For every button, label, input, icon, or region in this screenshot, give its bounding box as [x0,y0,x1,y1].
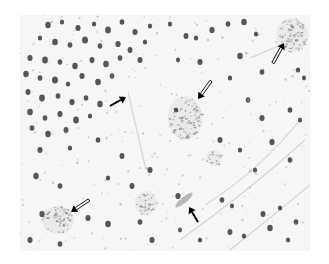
cell-nucleus [96,137,101,142]
cell-nucleus [288,107,293,113]
plaque [42,206,74,234]
cell-nucleus [174,107,178,112]
cell-nucleus [38,75,43,81]
cell-nucleus [198,238,202,243]
cell-nucleus [79,73,84,79]
cell-nucleus [57,111,62,117]
cell-nucleus [237,53,242,59]
cell-nucleus [269,139,274,145]
cell-nucleus [175,193,180,199]
cell-nucleus [197,59,202,65]
tissue-section [20,15,310,251]
cell-nucleus [90,57,95,63]
cell-nucleus [68,42,73,48]
cell-nucleus [298,118,302,123]
cell-nucleus [230,204,234,209]
cell-nucleus [84,95,89,100]
cell-nucleus [168,21,172,26]
cell-nucleus [106,175,110,180]
cell-nucleus [75,25,80,31]
cell-nucleus [33,173,38,179]
cell-nucleus [105,27,111,34]
cell-nucleus [30,125,35,131]
cell-nucleus [26,89,31,95]
cell-nucleus [137,57,142,63]
cell-nucleus [23,71,28,77]
cell-nucleus [85,215,90,221]
cell-nucleus [58,59,63,64]
cell-nucleus [288,157,293,162]
cell-nucleus [73,117,79,124]
cell-nucleus [58,183,63,189]
cell-nucleus [60,20,64,25]
cell-nucleus [138,219,143,225]
cell-nucleus [241,19,246,25]
cell-nucleus [260,69,265,75]
cell-nucleus [45,131,50,137]
cell-nucleus [37,147,42,153]
cell-nucleus [178,228,182,233]
cell-nucleus [45,22,50,28]
cell-nucleus [27,109,33,116]
cell-nucleus [278,205,282,210]
cell-nucleus [267,225,272,231]
cell-nucleus [120,19,125,25]
cell-nucleus [128,47,133,53]
cell-nucleus [118,55,123,60]
cell-nucleus [259,115,264,121]
tissue-micrograph [20,15,310,251]
cell-nucleus [110,73,115,78]
cell-nucleus [238,147,242,152]
cell-nucleus [52,77,58,84]
cell-nucleus [56,93,61,99]
cell-nucleus [130,183,135,189]
cell-nucleus [194,35,198,40]
cell-nucleus [92,21,96,26]
cell-nucleus [58,241,63,246]
cell-nucleus [132,29,137,35]
cell-nucleus [226,21,231,26]
cell-nucleus [253,168,257,173]
cell-nucleus [176,58,180,63]
cell-nucleus [218,137,223,143]
cell-nucleus [120,153,125,159]
cell-nucleus [254,32,258,37]
cell-nucleus [147,167,152,173]
cell-nucleus [296,67,300,72]
cell-nucleus [82,37,88,44]
cell-nucleus [72,63,77,69]
cell-nucleus [39,95,45,102]
cell-nucleus [103,61,109,68]
cell-nucleus [302,76,306,81]
cell-nucleus [261,211,266,217]
cell-nucleus [27,237,32,243]
cell-nucleus [228,75,232,80]
cell-nucleus [115,41,120,47]
cell-nucleus [88,113,92,118]
cell-nucleus [220,197,225,202]
cell-nucleus [148,24,152,29]
cell-nucleus [66,81,70,86]
cell-nucleus [68,145,72,150]
cell-nucleus [95,79,101,86]
cell-nucleus [97,101,102,107]
cell-nucleus [69,99,74,105]
cell-nucleus [209,27,214,33]
micrograph-figure [0,0,329,264]
cell-nucleus [39,211,44,217]
cell-nucleus [143,39,147,44]
cell-nucleus [242,233,246,238]
cell-nucleus [149,237,154,243]
cell-nucleus [98,43,103,48]
cell-nucleus [105,221,111,228]
cell-nucleus [38,35,42,40]
cell-nucleus [184,33,189,39]
cell-nucleus [52,39,58,46]
